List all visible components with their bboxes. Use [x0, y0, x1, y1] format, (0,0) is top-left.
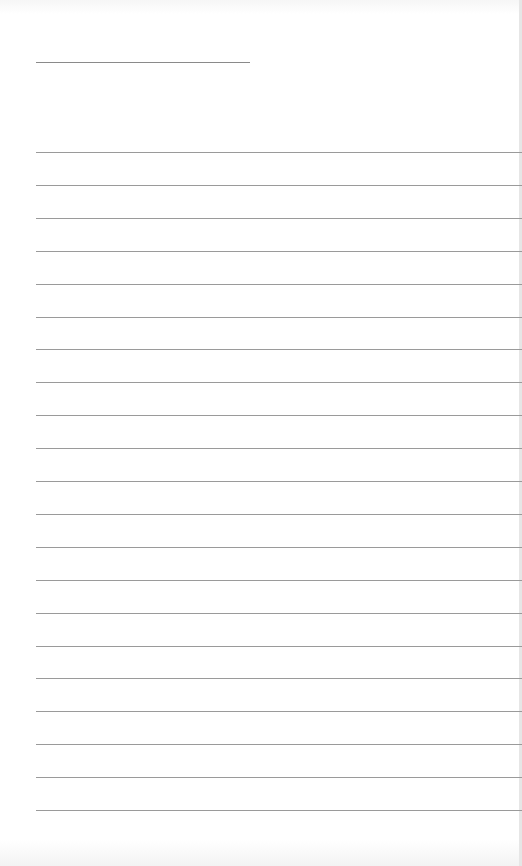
lined-paper-page [0, 0, 522, 866]
ruled-line [36, 415, 522, 416]
ruled-line [36, 547, 522, 548]
ruled-line [36, 185, 522, 186]
ruled-line [36, 777, 522, 778]
ruled-line [36, 349, 522, 350]
ruled-line [36, 481, 522, 482]
ruled-line [36, 284, 522, 285]
ruled-line [36, 711, 522, 712]
ruled-line [36, 744, 522, 745]
ruled-line [36, 448, 522, 449]
ruled-line [36, 152, 522, 153]
ruled-line [36, 317, 522, 318]
ruled-line [36, 251, 522, 252]
ruled-line [36, 514, 522, 515]
ruled-line [36, 218, 522, 219]
ruled-line [36, 613, 522, 614]
ruled-line [36, 678, 522, 679]
ruled-line [36, 580, 522, 581]
ruled-line [36, 646, 522, 647]
ruled-line [36, 810, 522, 811]
title-line [36, 62, 250, 63]
ruled-line [36, 382, 522, 383]
